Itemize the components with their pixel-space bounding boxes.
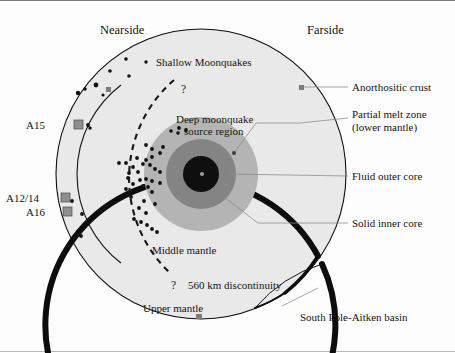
callout-label-solid-inner-core: Solid inner core — [352, 217, 422, 229]
deep-moonquake-label-line2: source region — [184, 125, 244, 137]
lunar-interior-diagram: Nearside Farside Shallow Moonquakes Deep… — [0, 1, 455, 353]
callout-label-partial-melt-line1: Partial melt zone — [352, 108, 427, 120]
rim-tick-crust-anchor — [299, 85, 304, 90]
station-label-a15: A15 — [26, 119, 45, 131]
deep-moonquake-legend-dot-2 — [176, 131, 180, 135]
question-mark-bottom: ? — [171, 279, 176, 291]
upper-mantle-label: Upper mantle — [143, 302, 203, 314]
rim-tick-upper — [106, 87, 111, 92]
deep-moonquake-legend-dot-1 — [169, 129, 173, 133]
partial-melt-anchor-dot — [232, 151, 236, 155]
deep-moonquake-label-line1: Deep moonquake — [176, 113, 253, 125]
shallow-moonquakes-label: Shallow Moonquakes — [156, 56, 252, 68]
callout-label-partial-melt-line2: (lower mantle) — [352, 121, 417, 134]
rim-tick-bottom — [196, 314, 202, 319]
inner-core-center-speck — [200, 172, 204, 176]
station-marker-a16 — [63, 207, 72, 216]
station-marker-a12-14 — [61, 193, 70, 202]
question-mark-top: ? — [181, 83, 186, 95]
callout-label-fluid-outer-core: Fluid outer core — [352, 170, 422, 182]
middle-mantle-label: Middle mantle — [152, 244, 217, 256]
shallow-moonquake-legend-dot — [144, 60, 147, 63]
callout-label-anorthositic-crust: Anorthositic crust — [352, 81, 431, 93]
discontinuity-label: 560 km discontinuity — [188, 279, 282, 291]
spa-basin-label: South Pole-Aitken basin — [300, 311, 408, 323]
station-label-a16: A16 — [26, 206, 45, 218]
farside-label: Farside — [307, 23, 344, 37]
nearside-label: Nearside — [100, 23, 145, 37]
station-marker-a15 — [74, 120, 83, 129]
station-label-a12-14: A12/14 — [6, 192, 40, 204]
